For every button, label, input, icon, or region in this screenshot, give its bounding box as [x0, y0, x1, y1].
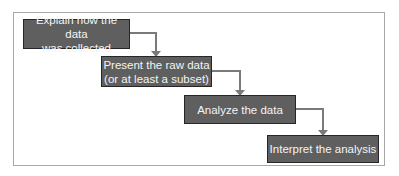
connector-3-4 [296, 109, 323, 131]
step-present-raw-data: Present the raw data (or at least a subs… [101, 56, 212, 87]
step-analyze-data: Analyze the data [184, 95, 296, 124]
connector-2-3 [212, 71, 240, 91]
connector-1-2 [130, 33, 156, 52]
step-explain-collection: Explain how the data was collected [23, 19, 130, 49]
step-interpret-analysis: Interpret the analysis [267, 135, 379, 163]
